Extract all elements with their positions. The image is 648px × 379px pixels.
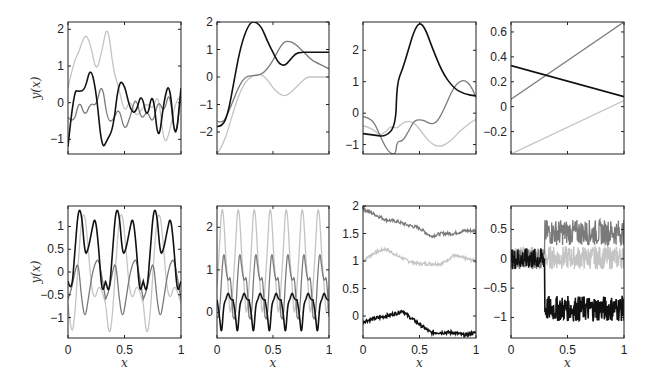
series-light-line — [511, 101, 624, 155]
y-tick-label: −1 — [50, 132, 64, 146]
y-tick-label: 0.5 — [490, 222, 507, 236]
y-tick-label: 0 — [500, 100, 507, 114]
y-tick-label: 0 — [206, 305, 213, 319]
y-tick-label: 2 — [57, 22, 64, 36]
y-tick-label: 2 — [352, 43, 359, 57]
y-tick-label: 1 — [206, 263, 213, 277]
y-tick-label: 1 — [57, 219, 64, 233]
y-tick-label: 0 — [500, 252, 507, 266]
x-tick-label: 0 — [360, 343, 367, 357]
x-tick-label: 0.5 — [265, 343, 282, 357]
y-tick-label: −1 — [345, 138, 359, 152]
x-tick-label: 0.5 — [559, 343, 576, 357]
subplot-r1c3: −1012 — [345, 22, 476, 154]
y-tick-label: −0.5 — [40, 288, 64, 302]
subplot-r1c4: −0.200.20.40.6 — [483, 22, 624, 154]
y-tick-label: −1 — [493, 310, 507, 324]
x-axis-label: x — [416, 356, 423, 370]
y-tick-label: 1.5 — [342, 227, 359, 241]
y-tick-label: −2 — [199, 125, 213, 139]
y-tick-label: −0.5 — [483, 281, 507, 295]
x-tick-label: 0 — [508, 343, 515, 357]
y-tick-label: 2 — [352, 199, 359, 213]
y-tick-label: 0 — [352, 309, 359, 323]
y-tick-label: 0.6 — [490, 25, 507, 39]
subplot-r2c3: 00.511.5200.51x — [342, 199, 479, 370]
subplot-r1c1: −1012y(x) — [29, 22, 181, 154]
series-light-line — [363, 248, 476, 265]
x-tick-label: 1 — [326, 343, 333, 357]
y-tick-label: 0.5 — [342, 282, 359, 296]
y-tick-label: 1 — [352, 254, 359, 268]
y-tick-label: −0.2 — [483, 125, 507, 139]
x-tick-label: 0 — [65, 343, 72, 357]
x-tick-label: 1 — [473, 343, 480, 357]
y-tick-label: 1 — [57, 59, 64, 73]
y-axis-label: y(x) — [29, 260, 43, 284]
series-mid-line — [363, 208, 476, 237]
series-dark-line — [363, 311, 476, 337]
y-tick-label: 1 — [206, 43, 213, 57]
y-tick-label: 0.5 — [47, 242, 64, 256]
series-dark-line — [511, 66, 624, 97]
y-axis-label: y(x) — [29, 76, 43, 100]
x-axis-label: x — [121, 356, 128, 370]
y-tick-label: 0 — [57, 96, 64, 110]
x-tick-label: 1 — [621, 343, 628, 357]
axes-box — [68, 206, 181, 338]
series-mid-line — [511, 22, 624, 99]
x-axis-label: x — [564, 356, 571, 370]
y-tick-label: 2 — [206, 220, 213, 234]
subplot-r2c2: 01200.51x — [206, 206, 332, 370]
y-tick-label: 1 — [352, 75, 359, 89]
y-tick-label: −1 — [50, 311, 64, 325]
y-tick-label: 0 — [352, 106, 359, 120]
x-tick-label: 0 — [214, 343, 221, 357]
series-mid-line — [68, 89, 181, 133]
series-mid-line — [68, 260, 181, 315]
y-tick-label: 0 — [206, 70, 213, 84]
y-tick-label: 2 — [206, 15, 213, 29]
y-tick-label: 0.2 — [490, 75, 507, 89]
x-tick-label: 0.5 — [411, 343, 428, 357]
subplot-r1c2: −2−1012 — [199, 15, 329, 154]
y-tick-label: 0.4 — [490, 50, 507, 64]
series-light-line — [363, 119, 476, 146]
y-tick-label: −1 — [199, 98, 213, 112]
subplot-r2c4: −1−0.500.500.51x — [483, 206, 627, 370]
y-tick-label: 0 — [57, 265, 64, 279]
x-tick-label: 1 — [178, 343, 185, 357]
subplot-r2c1: −1−0.500.5100.51xy(x) — [29, 206, 185, 370]
x-axis-label: x — [270, 356, 277, 370]
x-tick-label: 0.5 — [116, 343, 133, 357]
figure-grid: −1012y(x)−2−1012−1012−0.200.20.40.6−1−0.… — [0, 0, 648, 379]
